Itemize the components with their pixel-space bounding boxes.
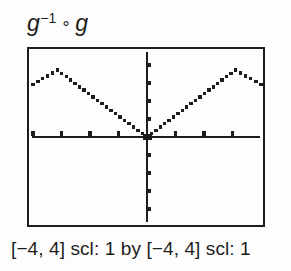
calculator-graph-figure: g−1∘g [−4, 4] scl: 1 by [−4, 4] scl: 1 [0,0,291,271]
function-g-symbol: g [27,10,40,36]
origin-dot [143,134,152,141]
function-g-symbol-2: g [75,10,88,36]
figure-title: g−1∘g [27,9,89,37]
window-range-caption: [−4, 4] scl: 1 by [−4, 4] scl: 1 [11,238,251,260]
plot-area [29,49,263,225]
inverse-exponent: −1 [40,10,56,26]
plot-window-border [27,47,265,227]
composition-operator-icon: ∘ [56,15,75,32]
